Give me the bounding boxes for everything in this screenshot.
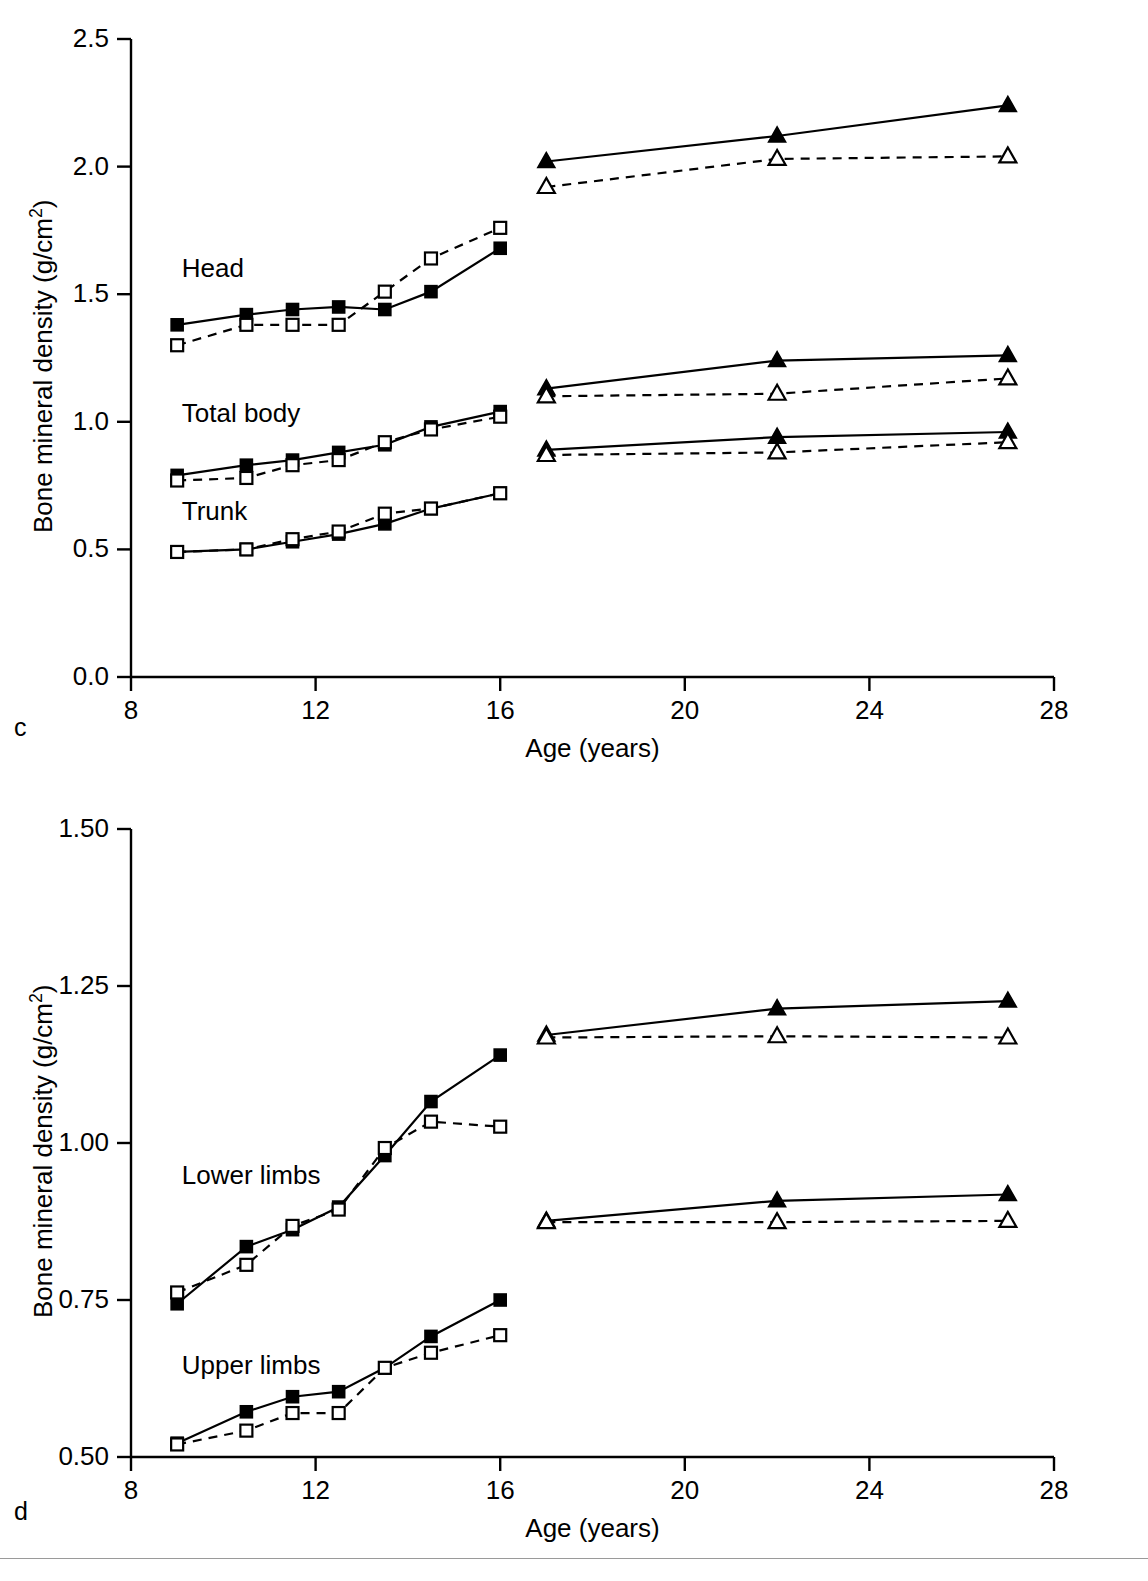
marker-filled-square xyxy=(171,1298,183,1310)
marker-filled-triangle xyxy=(769,428,786,443)
y-axis-title-exponent: 2 xyxy=(26,993,46,1003)
marker-filled-triangle xyxy=(999,1186,1016,1201)
y-tick-label: 0.0 xyxy=(0,661,109,692)
marker-filled-square xyxy=(333,301,345,313)
marker-filled-square xyxy=(379,304,391,316)
marker-open-square xyxy=(287,459,299,471)
marker-open-square xyxy=(379,1362,391,1374)
marker-open-square xyxy=(425,252,437,264)
x-tick-label: 28 xyxy=(1014,1475,1094,1506)
marker-open-square xyxy=(425,423,437,435)
marker-filled-square xyxy=(287,304,299,316)
marker-filled-square xyxy=(240,1241,252,1253)
data-series xyxy=(171,222,506,351)
marker-open-square xyxy=(333,319,345,331)
x-tick-label: 12 xyxy=(276,695,356,726)
marker-filled-square xyxy=(333,1386,345,1398)
x-axis-title: Age (years) xyxy=(131,1513,1054,1544)
marker-open-square xyxy=(494,411,506,423)
marker-open-square xyxy=(333,1407,345,1419)
y-axis-title-close-paren: ) xyxy=(28,199,58,208)
marker-open-triangle xyxy=(769,385,786,400)
marker-filled-triangle xyxy=(769,1192,786,1207)
marker-open-square xyxy=(287,1220,299,1232)
marker-open-triangle xyxy=(769,443,786,458)
chart-panel-c xyxy=(0,0,1148,770)
marker-filled-triangle xyxy=(999,96,1016,111)
marker-open-square xyxy=(287,319,299,331)
y-axis-title-exponent: 2 xyxy=(26,208,46,218)
marker-open-triangle xyxy=(999,147,1016,162)
marker-open-square xyxy=(171,1438,183,1450)
marker-open-square xyxy=(494,1329,506,1341)
series-annotation: Total body xyxy=(182,398,301,429)
marker-open-square xyxy=(494,487,506,499)
x-tick-label: 8 xyxy=(91,1475,171,1506)
marker-filled-triangle xyxy=(999,346,1016,361)
data-series xyxy=(538,1027,1017,1043)
marker-open-square xyxy=(333,1204,345,1216)
y-tick-label: 2.5 xyxy=(0,23,109,54)
marker-open-triangle xyxy=(999,1029,1016,1044)
series-annotation: Lower limbs xyxy=(182,1160,321,1191)
plot-area-d xyxy=(0,790,1148,1581)
x-tick-label: 8 xyxy=(91,695,171,726)
x-tick-label: 12 xyxy=(276,1475,356,1506)
marker-open-square xyxy=(171,546,183,558)
y-tick-label: 0.50 xyxy=(0,1441,109,1472)
y-axis-title-text: Bone mineral density (g/cm xyxy=(28,1003,58,1318)
marker-filled-square xyxy=(425,1330,437,1342)
marker-open-square xyxy=(333,526,345,538)
series-annotation: Head xyxy=(182,253,244,284)
marker-filled-square xyxy=(425,1096,437,1108)
marker-filled-square xyxy=(494,1049,506,1061)
data-series xyxy=(171,1116,506,1299)
marker-open-triangle xyxy=(769,1027,786,1042)
marker-open-square xyxy=(171,474,183,486)
marker-open-square xyxy=(240,1259,252,1271)
y-axis-title: Bone mineral density (g/cm2) xyxy=(26,199,59,533)
y-tick-label: 1.50 xyxy=(0,813,109,844)
x-tick-label: 24 xyxy=(829,695,909,726)
marker-open-square xyxy=(333,454,345,466)
series-annotation: Upper limbs xyxy=(182,1350,321,1381)
marker-filled-square xyxy=(171,319,183,331)
marker-open-square xyxy=(425,1116,437,1128)
marker-open-square xyxy=(425,1347,437,1359)
x-tick-label: 28 xyxy=(1014,695,1094,726)
y-tick-label: 2.0 xyxy=(0,151,109,182)
axis-group xyxy=(117,39,1054,691)
y-axis-title: Bone mineral density (g/cm2) xyxy=(26,984,59,1318)
marker-filled-triangle xyxy=(999,992,1016,1007)
series-annotation: Trunk xyxy=(182,496,248,527)
x-tick-label: 20 xyxy=(645,1475,725,1506)
y-axis-title-close-paren: ) xyxy=(28,984,58,993)
marker-open-square xyxy=(379,286,391,298)
marker-filled-square xyxy=(240,459,252,471)
footer-divider xyxy=(0,1558,1148,1559)
marker-open-square xyxy=(287,1407,299,1419)
plot-area-c xyxy=(0,0,1148,770)
marker-filled-square xyxy=(494,242,506,254)
figure-container: 0.00.51.01.52.02.581216202428Age (years)… xyxy=(0,0,1148,1581)
x-tick-label: 16 xyxy=(460,695,540,726)
marker-filled-triangle xyxy=(769,1000,786,1015)
marker-open-triangle xyxy=(999,1212,1016,1227)
marker-open-square xyxy=(171,339,183,351)
marker-open-square xyxy=(494,1121,506,1133)
marker-filled-square xyxy=(287,1391,299,1403)
marker-open-square xyxy=(379,436,391,448)
y-tick-label: 0.5 xyxy=(0,533,109,564)
x-tick-label: 20 xyxy=(645,695,725,726)
marker-open-square xyxy=(240,472,252,484)
x-axis-title: Age (years) xyxy=(131,733,1054,764)
marker-filled-square xyxy=(425,286,437,298)
panel-letter-d: d xyxy=(14,1497,28,1526)
marker-open-square xyxy=(240,319,252,331)
x-tick-label: 24 xyxy=(829,1475,909,1506)
y-axis-title-text: Bone mineral density (g/cm xyxy=(28,218,58,533)
marker-open-triangle xyxy=(999,369,1016,384)
marker-open-square xyxy=(379,1142,391,1154)
marker-open-square xyxy=(425,503,437,515)
marker-open-square xyxy=(171,1286,183,1298)
